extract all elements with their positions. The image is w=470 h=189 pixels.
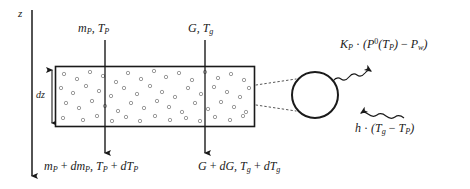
magnified-particle-circle — [292, 72, 338, 118]
gas-outflow-label: G + dG, Tg + dTg — [198, 160, 280, 172]
heat-transfer-label: h · (Tg − TP) — [355, 122, 414, 134]
heat-transfer-wavy-arrow — [361, 112, 404, 118]
gas-inflow-label: G, Tg — [188, 22, 213, 34]
magnifier-leader-lines — [256, 79, 296, 111]
mass-transfer-label: KP · (P0(TP) − Pw) — [340, 38, 428, 50]
particle-inflow-label: mP, TP — [78, 22, 109, 34]
mass-transfer-wavy-arrow — [333, 70, 371, 81]
diagram-canvas: z dz mP, TP G, Tg mP + dmP, TP + dTP G +… — [0, 0, 470, 189]
axis-label-z: z — [18, 8, 22, 19]
particle-outflow-label: mP + dmP, TP + dTP — [44, 160, 138, 172]
dz-label: dz — [36, 90, 45, 100]
